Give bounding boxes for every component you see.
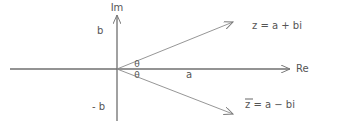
real-axis-label: Re	[296, 63, 309, 74]
b-negative-label: - b	[92, 101, 105, 112]
argand-diagram: Im Re b - b a θ θ z = a + bi z = a − bi	[0, 0, 348, 127]
b-positive-label: b	[97, 25, 103, 36]
z-conjugate-equation-label: z = a − bi	[245, 99, 295, 110]
imaginary-axis-label: Im	[111, 2, 124, 13]
a-label: a	[186, 69, 192, 80]
theta-lower-label: θ	[134, 70, 140, 80]
theta-upper-label: θ	[134, 59, 140, 69]
z-equation-label: z = a + bi	[252, 20, 302, 31]
